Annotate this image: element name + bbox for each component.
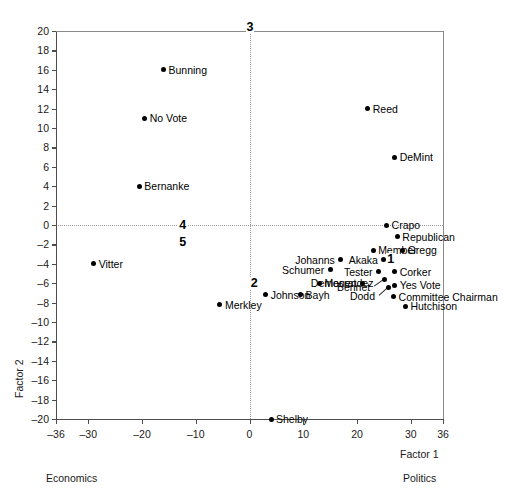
y-tick bbox=[52, 147, 56, 148]
y-tick bbox=[52, 206, 56, 207]
data-point-label: DeMint bbox=[400, 152, 433, 163]
y-tick-label: 6 bbox=[18, 162, 49, 173]
y-tick-label: 20 bbox=[18, 26, 49, 37]
data-point bbox=[384, 223, 389, 228]
y-tick-label: –10 bbox=[18, 317, 49, 328]
cluster-annotation-3: 3 bbox=[246, 21, 255, 34]
cluster-annotation-4: 4 bbox=[178, 219, 187, 232]
data-point-label: No Vote bbox=[150, 113, 187, 124]
x-tick-label: 20 bbox=[337, 429, 377, 440]
cluster-annotation-1: 1 bbox=[386, 253, 395, 266]
y-tick bbox=[52, 31, 56, 32]
y-tick-label: 14 bbox=[18, 84, 49, 95]
data-point-label: Yes Vote bbox=[400, 280, 441, 291]
data-point bbox=[403, 304, 408, 309]
x-tick-label: 0 bbox=[230, 429, 270, 440]
x-tick-label: –20 bbox=[122, 429, 162, 440]
y-tick-label: 16 bbox=[18, 65, 49, 76]
data-point bbox=[395, 234, 400, 239]
y-tick bbox=[52, 341, 56, 342]
y-tick-label: –18 bbox=[18, 395, 49, 406]
data-point-label: Bernanke bbox=[144, 181, 189, 192]
cluster-annotation-5: 5 bbox=[178, 236, 187, 249]
data-point bbox=[142, 116, 147, 121]
y-tick bbox=[52, 400, 56, 401]
data-point-label: Hutchison bbox=[410, 301, 457, 312]
data-point-label: Bunning bbox=[169, 65, 208, 76]
x-tick bbox=[250, 419, 251, 424]
x-tick bbox=[56, 419, 57, 424]
data-point bbox=[382, 277, 387, 282]
y-tick-label: –2 bbox=[18, 239, 49, 250]
data-point bbox=[161, 67, 166, 72]
x-tick bbox=[357, 419, 358, 424]
plot-frame-right bbox=[443, 31, 444, 419]
y-tick bbox=[52, 186, 56, 187]
y-tick-label: 8 bbox=[18, 142, 49, 153]
data-point-label: Corker bbox=[400, 267, 432, 278]
y-tick bbox=[52, 89, 56, 90]
y-tick-label: –20 bbox=[18, 414, 49, 425]
data-point bbox=[137, 184, 142, 189]
y-tick-label: 4 bbox=[18, 181, 49, 192]
x-tick-label: 10 bbox=[283, 429, 323, 440]
data-point bbox=[392, 155, 397, 160]
y-tick bbox=[52, 361, 56, 362]
data-point-label: Republican bbox=[402, 232, 455, 243]
data-point-label: Johnson bbox=[271, 290, 311, 301]
y-tick-label: –12 bbox=[18, 336, 49, 347]
x-tick-label: –30 bbox=[68, 429, 108, 440]
y-tick-label: 12 bbox=[18, 104, 49, 115]
y-tick bbox=[52, 322, 56, 323]
y-tick bbox=[52, 167, 56, 168]
x-axis-high-caption: Politics bbox=[403, 473, 436, 484]
cluster-annotation-2: 2 bbox=[250, 277, 259, 290]
data-point bbox=[400, 248, 405, 253]
y-tick-label: 10 bbox=[18, 123, 49, 134]
y-tick bbox=[52, 380, 56, 381]
data-point-label: Merkley bbox=[225, 300, 262, 311]
x-tick-label: –10 bbox=[176, 429, 216, 440]
y-tick bbox=[52, 109, 56, 110]
y-tick-label: 0 bbox=[18, 220, 49, 231]
data-point bbox=[365, 106, 370, 111]
data-point-label: Tester bbox=[0, 267, 373, 278]
y-tick-label: 2 bbox=[18, 201, 49, 212]
y-tick bbox=[52, 70, 56, 71]
x-axis-low-caption: Economics bbox=[46, 473, 97, 484]
x-tick bbox=[196, 419, 197, 424]
y-tick bbox=[52, 50, 56, 51]
x-tick bbox=[411, 419, 412, 424]
data-point bbox=[269, 417, 274, 422]
data-point bbox=[392, 283, 397, 288]
data-point bbox=[391, 294, 396, 299]
y-tick bbox=[52, 303, 56, 304]
data-point-label: Gregg bbox=[408, 245, 437, 256]
y-axis-line bbox=[56, 31, 57, 420]
x-axis-title: Factor 1 bbox=[400, 449, 439, 460]
y-tick-label: 18 bbox=[18, 45, 49, 56]
x-tick-label: 36 bbox=[423, 429, 463, 440]
y-tick bbox=[52, 225, 56, 226]
y-tick-label: –14 bbox=[18, 356, 49, 367]
data-point bbox=[217, 302, 222, 307]
data-point bbox=[392, 269, 397, 274]
data-point bbox=[371, 248, 376, 253]
x-tick bbox=[88, 419, 89, 424]
data-point-label: Reed bbox=[373, 104, 398, 115]
x-tick bbox=[142, 419, 143, 424]
y-tick bbox=[52, 244, 56, 245]
x-tick bbox=[443, 419, 444, 424]
data-point bbox=[376, 269, 381, 274]
y-tick bbox=[52, 128, 56, 129]
data-point bbox=[386, 285, 391, 290]
data-point-label: Crapo bbox=[392, 220, 421, 231]
data-point-label: Shelby bbox=[276, 414, 308, 425]
y-tick-label: –16 bbox=[18, 375, 49, 386]
scatter-plot-figure: Factor 2 Factor 1 Economics Politics 201… bbox=[0, 0, 508, 497]
